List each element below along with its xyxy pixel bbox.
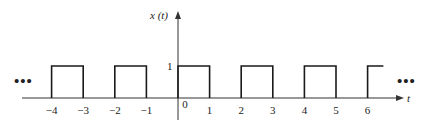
amplitude-label: 1 (167, 60, 173, 72)
pulse (115, 66, 147, 98)
pulse (52, 66, 84, 98)
pulse (304, 66, 336, 98)
tick-label: 5 (333, 104, 339, 116)
tick-label: −4 (46, 104, 58, 116)
square-wave-diagram: t x (t) 1 −4−3−2−10123456 ••• ••• (0, 0, 436, 127)
tick-label: 6 (365, 104, 371, 116)
tick-label: 4 (302, 104, 308, 116)
tick-label: −2 (109, 104, 121, 116)
t-axis-arrow-icon (396, 95, 404, 101)
left-ellipsis: ••• (14, 73, 33, 89)
tick-label: 2 (238, 104, 244, 116)
pulse (178, 66, 210, 98)
tick-label: 0 (182, 98, 188, 110)
tick-label: 3 (270, 104, 276, 116)
x-axis-label: x (t) (149, 9, 168, 22)
tick-label: −3 (77, 104, 89, 116)
tick-label: −1 (141, 104, 153, 116)
pulse (241, 66, 273, 98)
tick-labels: −4−3−2−10123456 (46, 98, 371, 116)
t-axis-label: t (407, 92, 411, 104)
pulse (368, 66, 384, 98)
tick-label: 1 (207, 104, 213, 116)
pulse-train (52, 66, 384, 98)
right-ellipsis: ••• (397, 73, 416, 89)
x-axis-arrow-icon (175, 11, 181, 19)
